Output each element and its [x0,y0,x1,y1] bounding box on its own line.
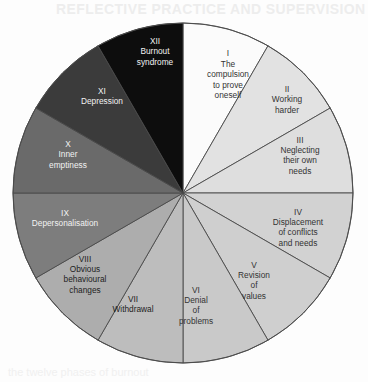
slice-roman-numeral: V [251,260,257,270]
slice-label-line: their own [283,155,317,165]
pie-slices-group [13,23,353,363]
slice-label-line: to prove [213,80,243,90]
slice-roman-numeral: XII [150,36,160,46]
slice-label-line: problems [179,316,213,326]
slice-label-line: Revision [238,270,270,280]
burnout-cycle-chart: REFLECTIVE PRACTICE AND SUPERVISION IThe… [0,0,368,382]
slice-label-line: behavioural [64,274,107,284]
slice-label-line: Depression [81,96,123,106]
slice-label-line: Inner [59,149,78,159]
slice-label-line: oneself [215,90,242,100]
slice-label-line: Neglecting [280,145,320,155]
slice-label-line: Depersonalisation [32,218,99,228]
slice-label-line: harder [275,105,299,115]
slice-label-line: Working [272,94,303,104]
slice-label-line: of [193,305,201,315]
slice-label-line: of conflicts [278,227,317,237]
slice-label-line: emptiness [49,160,87,170]
slice-label-line: needs [289,166,312,176]
slice-roman-numeral: XI [98,86,106,96]
slice-label-line: of [251,280,259,290]
slice-label-line: compulsion [207,69,249,79]
slice-label-line: and needs [279,238,318,248]
slice-roman-numeral: VII [128,294,138,304]
pie-chart-svg: IThecompulsionto proveoneselfIIWorkingha… [0,0,368,382]
slice-label-line: The [221,59,236,69]
slice-roman-numeral: III [297,135,304,145]
slice-roman-numeral: VI [192,285,200,295]
slice-label-line: Withdrawal [112,304,153,314]
slice-label-line: Displacement [273,217,324,227]
slice-label-line: syndrome [137,57,174,67]
slice-roman-numeral: II [285,84,290,94]
slice-roman-numeral: IX [61,208,69,218]
slice-label-line: values [242,291,266,301]
slice-label-line: Obvious [70,264,100,274]
slice-roman-numeral: VIII [79,254,91,264]
slice-label-line: Denial [184,295,208,305]
slice-roman-numeral: IV [294,207,302,217]
slice-label-line: changes [69,285,100,295]
slice-roman-numeral: X [65,139,71,149]
slice-roman-numeral: I [227,48,229,58]
slice-label-line: Burnout [140,46,170,56]
